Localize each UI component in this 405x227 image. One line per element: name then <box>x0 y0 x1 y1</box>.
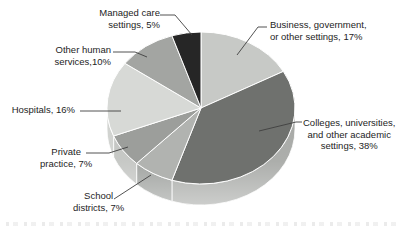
label-colleges-universities: Colleges, universities, and other academ… <box>303 117 395 152</box>
label-school-districts: School districts, 7% <box>73 190 124 214</box>
label-private-practice: Private practice, 7% <box>40 146 92 170</box>
pie-slices <box>107 32 295 184</box>
pie-chart-figure: Managed care settings, 5% Business, gove… <box>0 0 405 227</box>
label-managed-care-settings: Managed care settings, 5% <box>99 7 160 31</box>
label-hospitals: Hospitals, 16% <box>12 104 75 116</box>
leader-managed-care <box>160 15 192 35</box>
label-business-government: Business, government, or other settings,… <box>270 19 367 43</box>
cropped-caption-fragment <box>6 222 401 226</box>
label-other-human-services: Other human services,10% <box>55 44 112 68</box>
